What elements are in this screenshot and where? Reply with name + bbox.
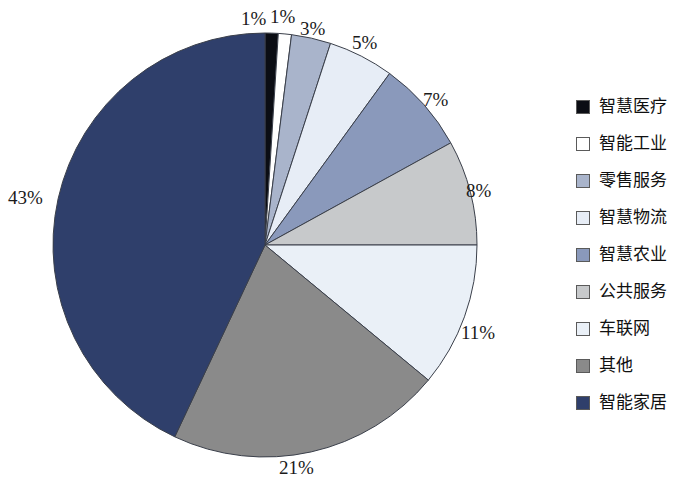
legend-item[interactable]: 智慧医疗 [576, 88, 689, 125]
legend-item[interactable]: 其他 [576, 347, 689, 384]
legend-item-label: 智能家居 [599, 394, 667, 411]
pie-slice-percent-label: 1% [241, 8, 266, 30]
legend-item-label: 公共服务 [599, 283, 667, 300]
legend-color-swatch-icon [576, 359, 590, 373]
pie-slice-percent-label: 1% [270, 6, 295, 28]
legend-color-swatch-icon [576, 174, 590, 188]
pie-slice-percent-label: 11% [461, 322, 495, 344]
legend-color-swatch-icon [576, 322, 590, 336]
legend-item-label: 智慧农业 [599, 246, 667, 263]
legend-color-swatch-icon [576, 100, 590, 114]
pie-slice-percent-label: 8% [466, 180, 491, 202]
legend-color-swatch-icon [576, 137, 590, 151]
pie-plot-area: 1%1%3%5%7%8%11%21%43% [0, 0, 540, 484]
pie-slice-percent-label: 7% [423, 89, 448, 111]
pie-svg [0, 0, 540, 484]
legend-color-swatch-icon [576, 248, 590, 262]
pie-slice-percent-label: 21% [279, 457, 314, 479]
legend-item-label: 智慧医疗 [599, 98, 667, 115]
legend-color-swatch-icon [576, 285, 590, 299]
legend-color-swatch-icon [576, 211, 590, 225]
pie-slice-percent-label: 43% [8, 187, 43, 209]
legend-item[interactable]: 智能工业 [576, 125, 689, 162]
legend-color-swatch-icon [576, 396, 590, 410]
legend-item[interactable]: 智慧农业 [576, 236, 689, 273]
chart-legend: 智慧医疗智能工业零售服务智慧物流智慧农业公共服务车联网其他智能家居 [576, 88, 689, 421]
legend-item[interactable]: 智能家居 [576, 384, 689, 421]
pie-slice-percent-label: 5% [352, 32, 377, 54]
pie-slice-percent-label: 3% [300, 18, 325, 40]
legend-item-label: 零售服务 [599, 172, 667, 189]
legend-item[interactable]: 车联网 [576, 310, 689, 347]
legend-item[interactable]: 智慧物流 [576, 199, 689, 236]
legend-item-label: 智能工业 [599, 135, 667, 152]
pie-chart-figure: 1%1%3%5%7%8%11%21%43% 智慧医疗智能工业零售服务智慧物流智慧… [0, 0, 689, 484]
legend-item-label: 其他 [599, 357, 633, 374]
legend-item-label: 智慧物流 [599, 209, 667, 226]
legend-item-label: 车联网 [599, 320, 650, 337]
legend-item[interactable]: 零售服务 [576, 162, 689, 199]
legend-item[interactable]: 公共服务 [576, 273, 689, 310]
